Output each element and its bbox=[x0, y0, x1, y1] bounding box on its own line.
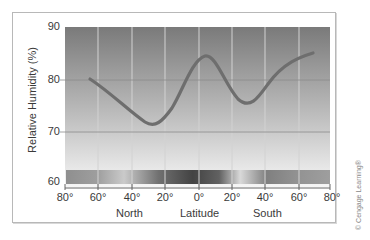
copyright-credit: © Cengage Learning® bbox=[355, 160, 362, 230]
chart-plot bbox=[0, 0, 370, 240]
x-tick-60n: 60° bbox=[83, 191, 113, 203]
x-tick-40n: 40° bbox=[117, 191, 147, 203]
x-tick-20s: 20° bbox=[217, 191, 247, 203]
y-tick-80: 80 bbox=[38, 73, 60, 85]
y-tick-60: 60 bbox=[38, 175, 60, 187]
x-label-south: South bbox=[253, 207, 282, 219]
x-tick-40s: 40° bbox=[250, 191, 280, 203]
x-tick-20n: 20° bbox=[150, 191, 180, 203]
x-tick-80s: 80° bbox=[317, 191, 347, 203]
y-axis-label: Relative Humidity (%) bbox=[26, 25, 38, 175]
plot-area bbox=[60, 27, 330, 190]
y-tick-70: 70 bbox=[38, 125, 60, 137]
x-tick-60s: 60° bbox=[284, 191, 314, 203]
x-tick-0: 0° bbox=[184, 191, 214, 203]
y-tick-90: 90 bbox=[38, 20, 60, 32]
satellite-band bbox=[66, 170, 330, 184]
x-tick-80n: 80° bbox=[50, 191, 80, 203]
x-axis-label: Latitude bbox=[180, 207, 219, 219]
x-label-north: North bbox=[116, 207, 143, 219]
